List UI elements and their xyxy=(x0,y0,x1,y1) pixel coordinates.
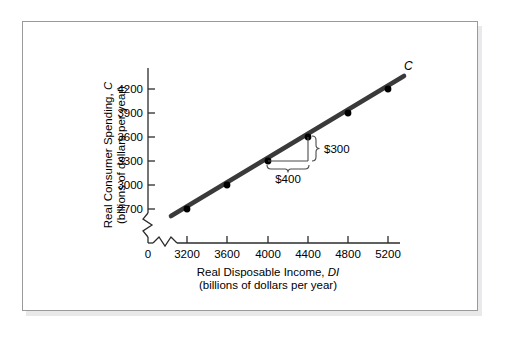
x-axis-title-main: Real Disposable Income, xyxy=(197,266,328,278)
run-label: $400 xyxy=(275,173,301,185)
data-point-3600-3000[interactable] xyxy=(224,182,231,189)
rise-label: $300 xyxy=(324,143,350,155)
consumption-function-line[interactable] xyxy=(171,76,404,216)
x-tick-label-5200: 5200 xyxy=(375,248,401,260)
rise-brace xyxy=(312,136,320,161)
x-axis-title-group: Real Disposable Income, DI (billions of … xyxy=(197,266,340,291)
x-tick-label-3200: 3200 xyxy=(174,248,200,260)
x-tick-label-4000: 4000 xyxy=(255,248,281,260)
x-axis-title-line2: (billions of dollars per year) xyxy=(199,279,337,291)
x-tick-label-4800: 4800 xyxy=(335,248,361,260)
x-axis-break-icon xyxy=(153,237,177,246)
curve-label-c: C xyxy=(404,59,413,73)
x-tick-label-3600: 3600 xyxy=(214,248,240,260)
y-axis-title-group: Real Consumer Spending, C (billions of d… xyxy=(102,81,127,228)
x-tick-label-4400: 4400 xyxy=(295,248,321,260)
run-brace xyxy=(267,165,309,173)
data-point-3200-2700[interactable] xyxy=(184,206,191,213)
rise-brace-group: $300 xyxy=(312,136,350,161)
y-axis-title-line2: (billions of dollars per year) xyxy=(115,86,127,224)
run-brace-group: $400 xyxy=(267,165,309,185)
y-axis-title-italic: C xyxy=(102,81,114,90)
y-axis-title-line1: Real Consumer Spending, C xyxy=(102,81,114,228)
consumption-line-group xyxy=(171,76,404,216)
data-point-5200-4200[interactable] xyxy=(385,86,392,93)
y-axis-title-main: Real Consumer Spending, xyxy=(102,90,114,228)
origin-label: 0 xyxy=(145,248,151,260)
x-axis-group: 0 3200 3600 4000 4400 4800 5200 xyxy=(145,236,401,260)
consumption-function-chart: 4200 3900 3600 3300 3000 2700 0 32 xyxy=(0,0,505,340)
y-axis-break-icon xyxy=(143,213,152,237)
x-axis-title-line1: Real Disposable Income, DI xyxy=(197,266,340,278)
slope-triangle-group xyxy=(268,137,308,161)
figure-root: 4200 3900 3600 3300 3000 2700 0 32 xyxy=(0,0,505,340)
data-point-4800-3900[interactable] xyxy=(345,110,352,117)
x-axis-title-italic: DI xyxy=(328,266,340,278)
